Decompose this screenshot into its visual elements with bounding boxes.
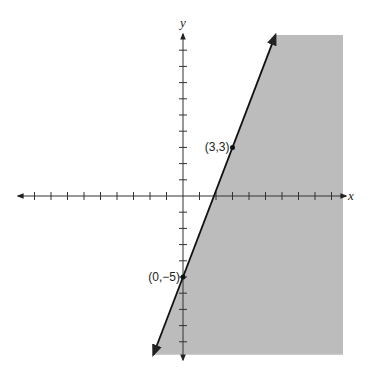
y-axis-label: y: [178, 15, 186, 30]
x-axis-label: x: [347, 188, 354, 203]
point-label: (3,3): [205, 140, 230, 154]
data-point: [230, 145, 235, 150]
data-point: [181, 275, 186, 280]
point-label: (0,−5): [148, 270, 180, 284]
inequality-graph: x y (3,3)(0,−5): [0, 0, 377, 378]
